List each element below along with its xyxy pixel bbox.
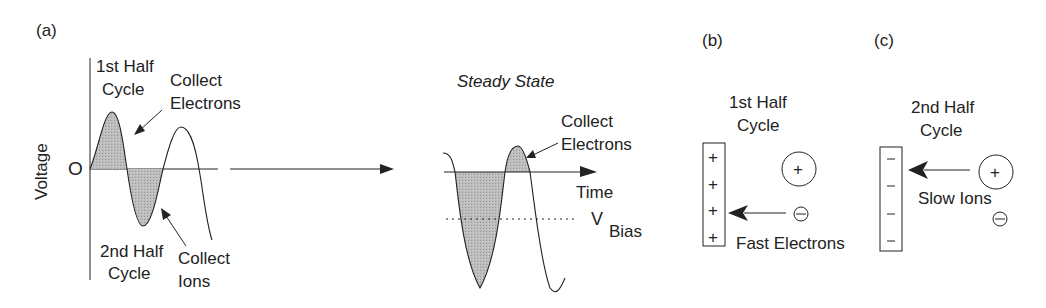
steady-collect-line1: Collect [561, 112, 613, 131]
collect-ions-line2: Ions [178, 272, 210, 291]
panel-b-title-line1: 1st Half [729, 93, 787, 112]
slow-ions-caption: Slow Ions [918, 189, 992, 208]
time-axis-arrowhead [580, 166, 597, 177]
transition-arrow-head [380, 164, 394, 174]
collect-electrons-pointer [140, 110, 162, 130]
first-half-line1: 1st Half [96, 57, 154, 76]
vbias-label-v: V [591, 209, 603, 229]
ion-symbol: + [793, 160, 803, 179]
collect-electrons-line1: Collect [170, 71, 222, 90]
steady-collect-pointer [533, 143, 558, 155]
time-label: Time [576, 183, 613, 202]
plate-charge-1: + [708, 148, 718, 167]
fast-electrons-caption: Fast Electrons [736, 234, 845, 253]
panel-b-label: (b) [702, 31, 723, 50]
steady-collect-line2: Electrons [561, 135, 632, 154]
first-half-shading [90, 112, 127, 169]
collect-electrons-line2: Electrons [170, 94, 241, 113]
steady-state: Steady State Time V Bias Collect Electro… [443, 72, 642, 292]
panel-c: (c) 2nd Half Cycle + Slow Ions [874, 31, 1013, 251]
second-half-line1: 2nd Half [100, 242, 164, 261]
plate-charge-3: + [708, 201, 718, 220]
second-half-line2: Cycle [108, 264, 151, 283]
panel-b-title-line2: Cycle [737, 116, 780, 135]
negative-plate [880, 147, 902, 251]
panel-a-label: (a) [36, 21, 57, 40]
vbias-label-sub: Bias [609, 222, 642, 241]
panel-b: (b) 1st Half Cycle + + + + + Fast Electr… [702, 31, 845, 253]
diagram-canvas: (a) Voltage O 1st Half Cycle Collect Ele… [0, 0, 1046, 308]
steady-state-title: Steady State [457, 72, 554, 91]
collect-ions-line1: Collect [178, 249, 230, 268]
ion-symbol: + [990, 163, 1000, 182]
panel-c-label: (c) [874, 31, 894, 50]
collect-electrons-arrowhead [134, 124, 145, 135]
origin-label: O [68, 158, 83, 179]
panel-a: (a) Voltage O 1st Half Cycle Collect Ele… [32, 21, 394, 291]
collect-ions-pointer [166, 216, 186, 246]
y-axis-label: Voltage [32, 143, 51, 200]
collect-ions-arrowhead [161, 208, 171, 220]
panel-c-title-line1: 2nd Half [911, 98, 975, 117]
plate-charge-2: + [708, 175, 718, 194]
steady-collect-arrowhead [526, 150, 536, 158]
steady-waveform [443, 146, 565, 292]
panel-c-title-line2: Cycle [920, 121, 963, 140]
plate-charge-4: + [708, 228, 718, 247]
first-half-line2: Cycle [102, 80, 145, 99]
second-half-shading [127, 169, 163, 226]
